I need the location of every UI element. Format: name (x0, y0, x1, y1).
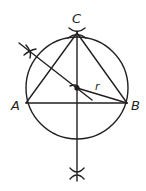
geometry-figure: C A B r (0, 0, 146, 191)
circumcenter-point (74, 85, 79, 90)
label-a: A (10, 98, 20, 113)
diagram-canvas: C A B r (0, 0, 146, 191)
label-c: C (72, 11, 82, 26)
radius-segment (77, 88, 127, 103)
label-b: B (131, 98, 140, 113)
arc-mark-left (24, 45, 36, 58)
label-r: r (95, 80, 101, 93)
